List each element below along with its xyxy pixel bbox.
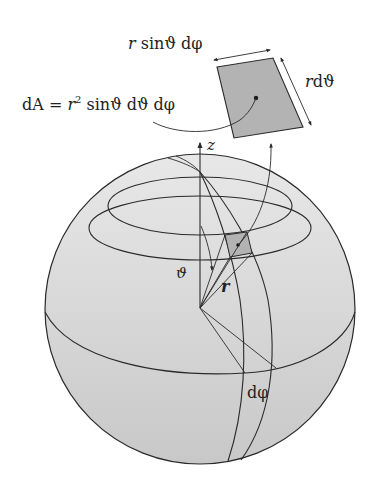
width-label: r sinϑ dφ [128,34,202,53]
surface-patch-enlarged [217,58,303,138]
width-dimension-arrow [214,50,270,60]
sphere-surface-element-diagram: r sinϑ dφ rdϑ dA = r2 sinϑ dϑ dφ z ϑ r d… [0,0,371,487]
height-label: rdϑ [305,72,334,91]
area-formula: dA = r2 sinϑ dϑ dφ [22,94,175,114]
theta-label: ϑ [176,264,187,282]
dphi-label: dφ [247,383,268,402]
z-axis-label: z [206,136,215,154]
